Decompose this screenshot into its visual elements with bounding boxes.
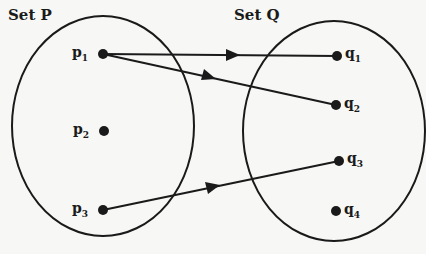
arrow-p1-q1 bbox=[103, 54, 337, 56]
point-q4 bbox=[331, 206, 341, 216]
point-p2 bbox=[99, 126, 109, 136]
label-p3: p3 bbox=[72, 200, 88, 219]
point-q1 bbox=[332, 51, 342, 61]
set-p-label: Set P bbox=[8, 6, 52, 24]
arrow-p3-q3 bbox=[103, 161, 339, 210]
label-q4: q4 bbox=[344, 201, 360, 220]
arrowhead-icon bbox=[201, 69, 216, 80]
label-q1: q1 bbox=[345, 45, 361, 64]
set-q-label: Set Q bbox=[234, 6, 280, 24]
label-p2: p2 bbox=[73, 121, 89, 140]
point-q3 bbox=[334, 156, 344, 166]
arrowhead-icon bbox=[205, 182, 220, 194]
label-p1: p1 bbox=[72, 44, 88, 63]
label-q3: q3 bbox=[347, 150, 363, 169]
point-q2 bbox=[331, 100, 341, 110]
point-p3 bbox=[98, 205, 108, 215]
arrowhead-icon bbox=[226, 49, 240, 61]
label-q2: q2 bbox=[344, 95, 360, 114]
point-p1 bbox=[98, 49, 108, 59]
mapping-diagram bbox=[0, 0, 426, 254]
arrow-p1-q2 bbox=[103, 54, 336, 105]
